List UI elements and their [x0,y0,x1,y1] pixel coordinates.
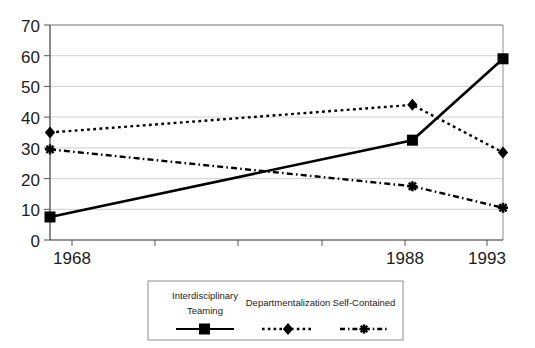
chart-canvas: 70 60 50 40 30 20 10 0 1968 1988 1993 In… [0,0,535,348]
data-point-interdisciplinary-teaming-1988 [407,135,418,146]
legend: Interdisciplinary Teaming Departmentaliz… [148,281,403,340]
legend-label-departmentalization: Departmentalization [246,297,331,308]
y-tick-label-0: 0 [31,232,40,251]
data-point-interdisciplinary-teaming-1968 [45,211,56,222]
legend-label-interdisciplinary-teaming-line2: Teaming [187,305,223,316]
data-point-self-contained-1988 [407,181,417,191]
y-tick-label-30: 30 [21,140,40,159]
x-tick-label-1993: 1993 [468,249,506,268]
x-tick-label-1988: 1988 [386,249,424,268]
y-tick-label-40: 40 [21,109,40,128]
y-tick-label-20: 20 [21,171,40,190]
y-tick-label-10: 10 [21,201,40,220]
y-tick-label-60: 60 [21,48,40,67]
line-chart: 70 60 50 40 30 20 10 0 1968 1988 1993 In… [0,0,535,348]
y-tick-label-50: 50 [21,78,40,97]
y-tick-label-70: 70 [21,17,40,36]
plot-area-background [50,25,503,240]
x-axis-ticks [72,240,487,246]
data-point-self-contained-1968 [45,144,55,154]
legend-label-self-contained: Self-Contained [333,297,396,308]
data-point-self-contained-1993 [498,203,508,213]
legend-label-interdisciplinary-teaming-line1: Interdisciplinary [172,290,238,301]
x-tick-label-1968: 1968 [53,249,91,268]
data-point-interdisciplinary-teaming-1993 [498,53,509,64]
